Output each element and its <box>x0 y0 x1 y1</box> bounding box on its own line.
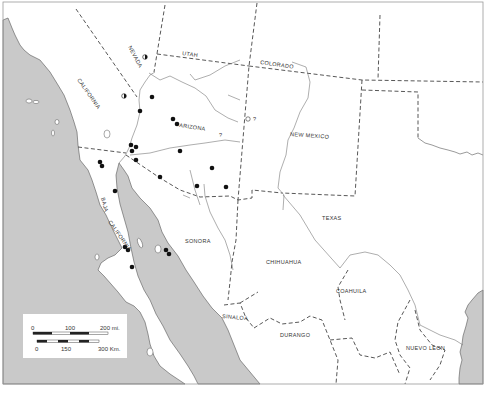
open-circle-point <box>246 117 250 121</box>
site-point <box>134 158 139 163</box>
scale-bar-km <box>37 340 99 342</box>
scale-mi-200: 200 mi. <box>100 325 120 331</box>
map: ? ? NEVADA UTAH COLORADO CALIFORNIA ARIZ… <box>0 0 487 400</box>
label-coahuila: COAHUILA <box>336 288 367 294</box>
site-point <box>130 149 135 154</box>
site-point <box>150 95 155 100</box>
site-point <box>129 143 134 148</box>
scale-bar-miles <box>33 332 108 334</box>
label-durango: DURANGO <box>280 332 311 338</box>
label-sonora: SONORA <box>185 238 211 244</box>
site-point <box>167 252 172 257</box>
scale-km-150: 150 <box>61 346 72 352</box>
site-point <box>138 109 143 114</box>
scale-mi-100: 100 <box>65 325 76 331</box>
site-point <box>164 248 169 253</box>
site-point <box>210 166 215 171</box>
site-point <box>158 175 163 180</box>
site-point <box>113 189 118 194</box>
label-chihuahua: CHIHUAHUA <box>266 259 301 265</box>
site-point <box>98 160 103 165</box>
label-nuevo-leon: NUEVO LEON <box>406 345 445 351</box>
scale-bar: 0 100 200 mi. 0 150 300 Km. <box>23 314 127 358</box>
site-point <box>178 149 183 154</box>
label-texas: TEXAS <box>322 215 342 221</box>
question-mark: ? <box>219 132 222 138</box>
site-point <box>130 265 135 270</box>
site-point <box>100 164 105 169</box>
site-point <box>224 185 229 190</box>
site-point <box>134 145 139 150</box>
site-point <box>171 117 176 122</box>
question-mark: ? <box>253 116 256 122</box>
scale-km-300: 300 Km. <box>98 346 121 352</box>
site-point <box>195 184 200 189</box>
